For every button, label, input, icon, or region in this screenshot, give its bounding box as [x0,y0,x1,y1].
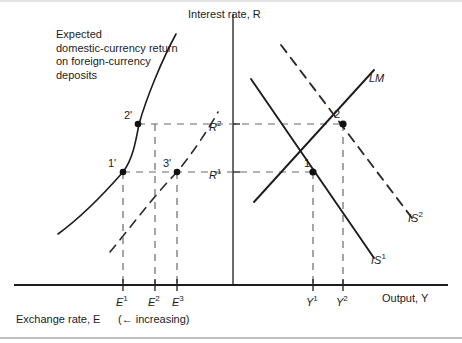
point-label-2-prime: 2' [124,109,132,122]
curve-label-lm: LM [369,72,384,85]
point-marker-2 [339,120,346,127]
is2-curve [281,45,412,218]
point-label-1: 1 [304,157,310,170]
axis-tick-label-y2: Y2 [336,292,348,309]
expected-return-curve-shifted [110,112,218,252]
point-marker-1 [309,168,316,175]
axis-tick-label-e2: E2 [148,292,160,309]
point-label-2: 2 [334,108,340,121]
point-label-3-prime: 3' [163,157,171,170]
economics-figure: Interest rate, R Expected domestic-curre… [0,0,462,343]
curve-label-is2: IS2 [408,208,423,225]
point-marker-1-prime [120,169,127,176]
caption-line-2: domestic-currency return [56,42,178,56]
axis-tick-label-y1: Y1 [306,292,318,309]
axis-title-output: Output, Y [382,292,428,305]
point-marker-3-prime [174,169,181,176]
caption-line-1: Expected [56,28,178,42]
caption-line-4: deposits [56,69,178,83]
point-marker-2-prime [135,121,142,128]
axis-title-exchange-rate: Exchange rate, E [16,313,100,326]
caption-line-3: on foreign-currency [56,55,178,69]
axis-tick-label-e1: E1 [116,292,128,309]
axis-tick-label-e3: E3 [172,292,184,309]
axis-note-increasing: (← increasing) [118,313,190,326]
axis-tick-label-r2: R2 [209,117,221,134]
axis-title-interest-rate: Interest rate, R [188,8,261,21]
axis-tick-label-r1: R1 [209,165,221,182]
point-label-1-prime: 1' [108,157,116,170]
curve-label-is1: IS1 [371,250,386,267]
expected-return-caption: Expected domestic-currency return on for… [56,28,178,82]
